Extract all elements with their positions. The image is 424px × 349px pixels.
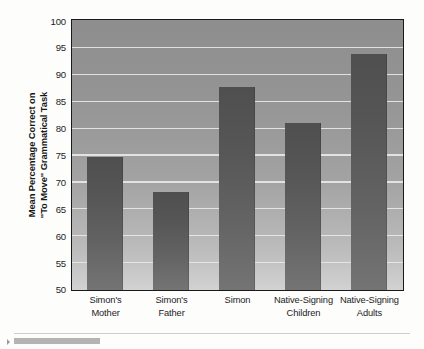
page-divider-rule bbox=[14, 333, 410, 334]
y-axis-tick-75: 75 bbox=[40, 150, 66, 161]
y-axis-tick-90: 90 bbox=[40, 69, 66, 80]
bar-4 bbox=[351, 54, 387, 290]
x-axis-label-4-line-1: Adults bbox=[329, 307, 409, 320]
y-axis-tick-60: 60 bbox=[40, 230, 66, 241]
bar-2 bbox=[219, 87, 255, 290]
y-axis-tick-50: 50 bbox=[40, 284, 66, 295]
x-axis-category-labels: Simon'sMotherSimon'sFatherSimonNative-Si… bbox=[71, 294, 404, 328]
y-axis-tick-100: 100 bbox=[40, 15, 66, 26]
x-axis-label-4-line-0: Native-Signing bbox=[329, 294, 409, 307]
plot-area bbox=[71, 19, 404, 291]
y-axis-title-line-1: Mean Percentage Correct on bbox=[26, 40, 38, 270]
x-axis-label-4: Native-SigningAdults bbox=[329, 294, 409, 319]
y-axis-tick-labels: 50556065707580859095100 bbox=[40, 19, 66, 291]
bar-1 bbox=[153, 192, 189, 290]
x-axis-label-1-line-1: Father bbox=[132, 307, 212, 320]
y-axis-tick-85: 85 bbox=[40, 96, 66, 107]
bars-group bbox=[72, 20, 403, 290]
page-footer-marker bbox=[14, 338, 100, 344]
bar-0 bbox=[87, 157, 123, 290]
page-footer-caret-icon bbox=[7, 339, 10, 345]
y-axis-tick-70: 70 bbox=[40, 176, 66, 187]
y-axis-tick-55: 55 bbox=[40, 257, 66, 268]
y-axis-tick-80: 80 bbox=[40, 123, 66, 134]
y-axis-tick-95: 95 bbox=[40, 42, 66, 53]
bar-chart-figure: Mean Percentage Correct on "To Move" Gra… bbox=[0, 0, 424, 349]
y-axis-tick-65: 65 bbox=[40, 203, 66, 214]
bar-3 bbox=[285, 123, 321, 290]
